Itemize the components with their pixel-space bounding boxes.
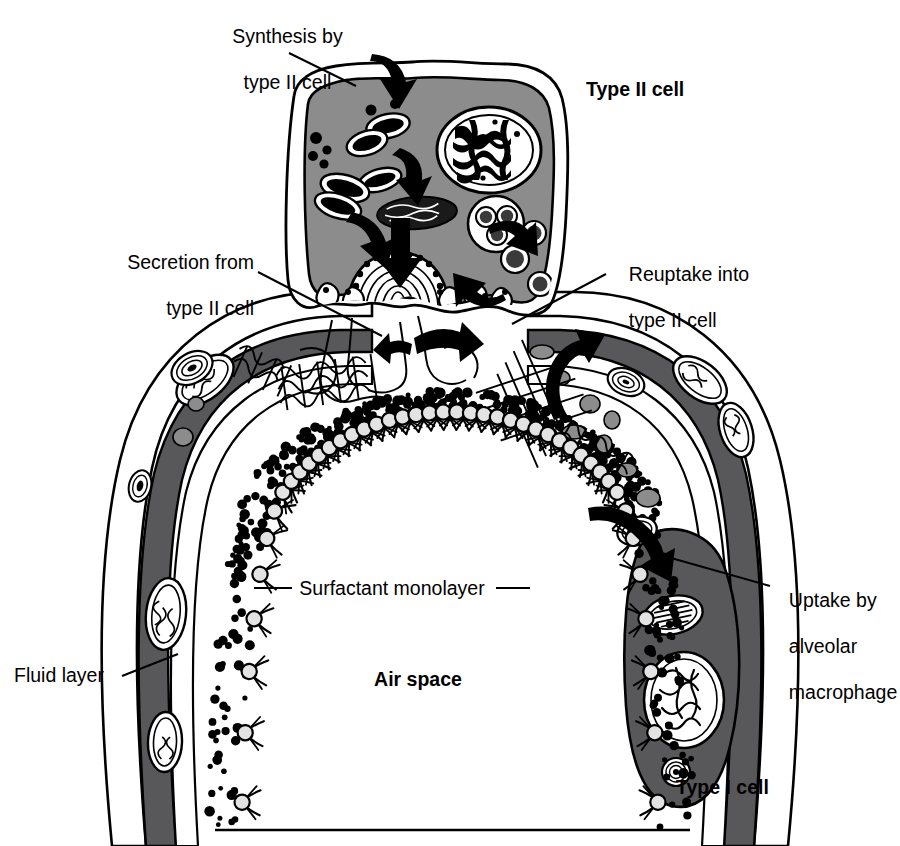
- surfactant-monolayer: [234, 404, 666, 819]
- label-fluid-layer: Fluid layer: [14, 664, 104, 687]
- surfactant-particle: [300, 445, 308, 453]
- surfactant-particle: [682, 758, 689, 765]
- surfactant-particle: [248, 519, 255, 526]
- surfactant-particle: [215, 729, 221, 735]
- surfactant-particle: [655, 588, 661, 594]
- surfactant-particle: [342, 409, 352, 419]
- surfactant-particle: [225, 561, 231, 567]
- surfactant-particle: [667, 586, 676, 595]
- surfactant-particle: [308, 434, 315, 441]
- surfactant-particle: [651, 699, 659, 707]
- label-uptake-line3: macrophage: [789, 681, 897, 703]
- surfactant-particle: [652, 708, 661, 717]
- label-uptake-macrophage: Uptake by alveolar macrophage: [778, 566, 900, 704]
- surfactant-particle: [215, 686, 220, 691]
- label-uptake-line1: Uptake by: [789, 589, 877, 611]
- surfactant-particle: [232, 816, 238, 822]
- label-secretion: Secretion from type II cell: [58, 228, 254, 320]
- surfactant-particle: [243, 551, 252, 560]
- surfactant-particle: [245, 640, 255, 650]
- surfactant-particle: [231, 615, 238, 622]
- surfactant-particle: [240, 509, 250, 519]
- surfactant-particle: [236, 571, 247, 582]
- surfactant-monomer: [237, 716, 264, 750]
- surfactant-monomer: [240, 654, 268, 689]
- surfactant-particle: [254, 469, 262, 477]
- hypophase-vesicle: [596, 435, 612, 453]
- surfactant-particle: [359, 415, 364, 420]
- surfactant-particle: [666, 621, 673, 628]
- label-air-space: Air space: [338, 668, 498, 691]
- surfactant-particle: [233, 545, 242, 554]
- surfactant-particle: [239, 541, 244, 546]
- surfactant-particle: [659, 605, 664, 610]
- surfactant-particle: [654, 622, 659, 627]
- surfactant-particle: [251, 492, 259, 500]
- surfactant-particle: [634, 549, 643, 558]
- surfactant-particle: [259, 496, 268, 505]
- surfactant-particle: [215, 662, 225, 672]
- surfactant-particle: [204, 806, 215, 817]
- surfactant-particle: [237, 500, 247, 510]
- surfactant-particle: [675, 676, 684, 685]
- label-secretion-line2: type II cell: [166, 297, 254, 319]
- surfactant-particle: [451, 389, 460, 398]
- surfactant-particle: [445, 394, 451, 400]
- label-uptake-line2: alveolar: [789, 635, 857, 657]
- surfactant-particle: [669, 741, 678, 750]
- label-surfactant-monolayer: Surfactant monolayer: [280, 577, 504, 600]
- surfactant-particle: [663, 773, 670, 780]
- surfactant-particle: [362, 401, 367, 406]
- hypophase-vesicle: [636, 489, 660, 507]
- surfactant-particle: [214, 751, 223, 760]
- surfactant-particle: [649, 577, 656, 584]
- surfactant-particle: [230, 553, 235, 558]
- label-reuptake: Reuptake into type II cell: [618, 240, 828, 332]
- surfactant-particle: [268, 477, 276, 485]
- surfactant-particle: [637, 476, 646, 485]
- surfactant-particle: [208, 764, 213, 769]
- surfactant-particle: [662, 757, 667, 762]
- surfactant-particle: [229, 631, 235, 637]
- surfactant-particle: [403, 397, 410, 404]
- surfactant-particle: [222, 727, 230, 735]
- surfactant-particle: [658, 596, 668, 606]
- surfactant-particle: [242, 695, 247, 700]
- surfactant-particle: [434, 387, 441, 394]
- surfactant-particle: [327, 426, 332, 431]
- surfactant-particle: [216, 822, 221, 827]
- surfactant-particle: [414, 396, 423, 405]
- surfactant-particle: [672, 618, 682, 628]
- surfactant-particle: [221, 768, 227, 774]
- surfactant-particle: [337, 425, 342, 430]
- surfactant-particle: [483, 390, 492, 399]
- surfactant-particle: [209, 718, 217, 726]
- surfactant-particle: [688, 756, 694, 762]
- label-synthesis: Synthesis by type II cell: [182, 2, 382, 94]
- label-synthesis-line1: Synthesis by: [232, 25, 343, 47]
- surfactant-particle: [683, 811, 691, 819]
- surfactant-particle: [662, 730, 672, 740]
- alveolus-diagram: [0, 0, 900, 846]
- surfactant-particle: [237, 608, 246, 617]
- surfactant-particle: [288, 446, 297, 455]
- surfactant-particle: [669, 604, 678, 613]
- surfactant-particle: [657, 655, 664, 662]
- label-type-ii-cell: Type II cell: [586, 78, 684, 101]
- hypophase-vesicle: [604, 411, 620, 429]
- label-type-i-cell: Type I cell: [676, 776, 769, 799]
- surfactant-particle: [648, 587, 656, 595]
- surfactant-particle: [679, 752, 685, 758]
- hypophase-vesicle: [530, 345, 554, 359]
- surfactant-particle: [665, 722, 673, 730]
- label-reuptake-line1: Reuptake into: [629, 263, 749, 285]
- surfactant-particle: [386, 403, 393, 410]
- hypophase-vesicle: [188, 397, 204, 411]
- label-synthesis-line2: type II cell: [244, 71, 332, 93]
- myelin-to-monolayer-arrow: [414, 322, 484, 362]
- label-reuptake-line2: type II cell: [629, 309, 717, 331]
- surfactant-particle: [665, 654, 675, 664]
- surfactant-particle: [218, 786, 223, 791]
- surfactant-particle: [233, 595, 242, 604]
- surfactant-particle: [238, 524, 246, 532]
